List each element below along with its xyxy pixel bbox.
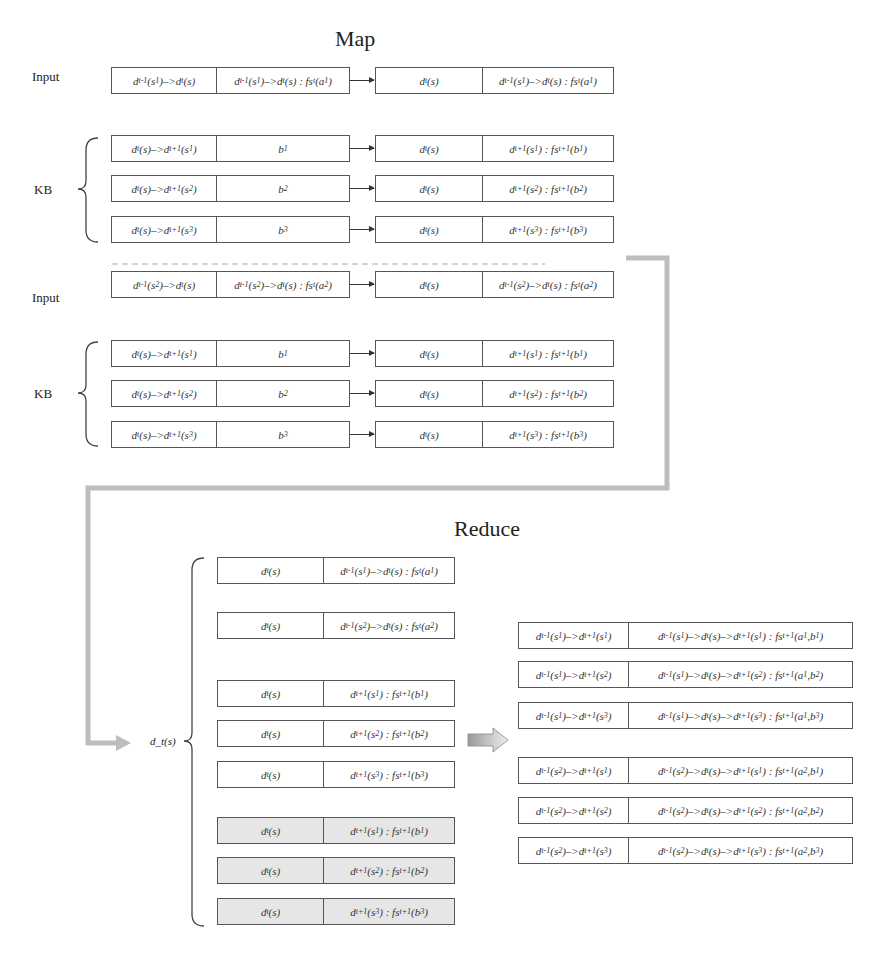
reduce-input-row-cell-0: dt(s)	[218, 558, 323, 583]
map-arrow-icon	[350, 393, 374, 394]
reduce-input-row: dt(s)dt-1(s1)–>dt(s) : fst(a1)	[217, 557, 455, 584]
reduce-input-row-cell-1: dt+1(s1) : fst+1(b1)	[323, 818, 454, 843]
map-input-row: dt-1(s2)–>dt(s)dt-1(s2)–>dt(s) : fst(a2)	[111, 271, 350, 298]
map-output-row-cell-1: dt+1(s1) : fst+1(b1)	[482, 136, 613, 161]
map-input-row-cell-0: dt(s)–>dt+1(s2)	[112, 176, 216, 201]
map-input-row-cell-1: b2	[216, 176, 349, 201]
map-input-row-cell-1: b1	[216, 136, 349, 161]
reduce-input-row: dt(s)dt+1(s2) : fst+1(b2)	[217, 720, 455, 747]
reduce-output-row-cell-1: dt-1(s2)–>dt(s)–>dt+1(s2) : fst+1(a2,b2)	[628, 798, 852, 823]
map-input-row: dt(s)–>dt+1(s2)b2	[111, 380, 350, 407]
reduce-input-row-cell-1: dt+1(s2) : fst+1(b2)	[323, 858, 454, 883]
map-output-row-cell-1: dt+1(s3) : fst+1(b3)	[482, 422, 613, 447]
reduce-input-row-cell-1: dt+1(s3) : fst+1(b3)	[323, 899, 454, 924]
reduce-brace	[184, 558, 204, 926]
map-output-row-cell-0: dt(s)	[376, 176, 482, 201]
map-output-row: dt(s)dt+1(s2) : fst+1(b2)	[375, 175, 614, 202]
reduce-input-row-cell-0: dt(s)	[218, 762, 323, 787]
map-title: Map	[335, 26, 375, 52]
kb-label-1: KB	[34, 182, 52, 198]
map-input-row-cell-0: dt(s)–>dt+1(s3)	[112, 422, 216, 447]
map-output-row-cell-0: dt(s)	[376, 68, 482, 93]
reduce-output-row-cell-0: dt-1(s2)–>dt+1(s2)	[519, 798, 628, 823]
reduce-input-row: dt(s)dt-1(s2)–>dt(s) : fst(a2)	[217, 612, 455, 639]
reduce-input-row-cell-1: dt-1(s1)–>dt(s) : fst(a1)	[323, 558, 454, 583]
map-output-row: dt(s)dt+1(s3) : fst+1(b3)	[375, 216, 614, 243]
map-output-row-cell-0: dt(s)	[376, 341, 482, 366]
reduce-output-row: dt-1(s2)–>dt+1(s2)dt-1(s2)–>dt(s)–>dt+1(…	[518, 797, 853, 824]
map-input-row-cell-1: dt-1(s1)–>dt(s) : fst(a1)	[216, 68, 349, 93]
map-output-row-cell-1: dt+1(s2) : fst+1(b2)	[482, 176, 613, 201]
map-input-row: dt(s)–>dt+1(s3)b3	[111, 216, 350, 243]
map-output-row: dt(s)dt-1(s2)–>dt(s) : fst(a2)	[375, 271, 614, 298]
reduce-input-row: dt(s)dt+1(s3) : fst+1(b3)	[217, 761, 455, 788]
kb-brace-1	[78, 138, 98, 242]
reduce-output-row-cell-1: dt-1(s1)–>dt(s)–>dt+1(s2) : fst+1(a1,b2)	[628, 662, 852, 687]
map-input-row-cell-0: dt-1(s2)–>dt(s)	[112, 272, 216, 297]
reduce-input-row-cell-0: dt(s)	[218, 681, 323, 706]
kb-label-2: KB	[34, 386, 52, 402]
reduce-input-row-cell-0: dt(s)	[218, 818, 323, 843]
map-output-row-cell-1: dt+1(s3) : fst+1(b3)	[482, 217, 613, 242]
map-arrow-icon	[350, 80, 374, 81]
reduce-output-row-cell-1: dt-1(s2)–>dt(s)–>dt+1(s3) : fst+1(a2,b3)	[628, 838, 852, 863]
map-input-row-cell-1: b3	[216, 217, 349, 242]
reduce-output-row: dt-1(s2)–>dt+1(s3)dt-1(s2)–>dt(s)–>dt+1(…	[518, 837, 853, 864]
map-output-row-cell-1: dt-1(s1)–>dt(s) : fst(a1)	[482, 68, 613, 93]
input-label-2: Input	[32, 290, 59, 306]
map-arrow-icon	[350, 434, 374, 435]
map-output-row: dt(s)dt-1(s1)–>dt(s) : fst(a1)	[375, 67, 614, 94]
map-arrow-icon	[350, 353, 374, 354]
reduce-output-row: dt-1(s2)–>dt+1(s1)dt-1(s2)–>dt(s)–>dt+1(…	[518, 757, 853, 784]
map-input-row-cell-1: b3	[216, 422, 349, 447]
map-arrow-icon	[350, 229, 374, 230]
reduce-block-arrow	[468, 728, 508, 752]
reduce-output-row-cell-1: dt-1(s2)–>dt(s)–>dt+1(s1) : fst+1(a2,b1)	[628, 758, 852, 783]
map-output-row-cell-0: dt(s)	[376, 136, 482, 161]
map-input-row-cell-1: b2	[216, 381, 349, 406]
map-output-row-cell-0: dt(s)	[376, 272, 482, 297]
map-input-row-cell-1: b1	[216, 341, 349, 366]
map-input-row: dt(s)–>dt+1(s2)b2	[111, 175, 350, 202]
map-input-row-cell-0: dt(s)–>dt+1(s1)	[112, 341, 216, 366]
reduce-output-row: dt-1(s1)–>dt+1(s2)dt-1(s1)–>dt(s)–>dt+1(…	[518, 661, 853, 688]
map-output-row-cell-1: dt-1(s2)–>dt(s) : fst(a2)	[482, 272, 613, 297]
reduce-group-key: d_t(s)	[150, 735, 176, 747]
reduce-output-row-cell-0: dt-1(s2)–>dt+1(s3)	[519, 838, 628, 863]
reduce-output-row-cell-1: dt-1(s1)–>dt(s)–>dt+1(s1) : fst+1(a1,b1)	[628, 623, 852, 648]
flow-connector-arrowhead	[116, 735, 131, 751]
reduce-input-row: dt(s)dt+1(s1) : fst+1(b1)	[217, 680, 455, 707]
map-arrow-icon	[350, 188, 374, 189]
map-input-row: dt(s)–>dt+1(s1)b1	[111, 340, 350, 367]
reduce-input-row-cell-0: dt(s)	[218, 899, 323, 924]
reduce-output-row-cell-0: dt-1(s1)–>dt+1(s2)	[519, 662, 628, 687]
map-output-row-cell-0: dt(s)	[376, 217, 482, 242]
map-input-row-cell-0: dt(s)–>dt+1(s2)	[112, 381, 216, 406]
map-input-row-cell-0: dt-1(s1)–>dt(s)	[112, 68, 216, 93]
map-output-row-cell-1: dt+1(s1) : fst+1(b1)	[482, 341, 613, 366]
reduce-input-row-cell-0: dt(s)	[218, 613, 323, 638]
map-output-row-cell-0: dt(s)	[376, 381, 482, 406]
map-output-row-cell-0: dt(s)	[376, 422, 482, 447]
map-input-row-cell-1: dt-1(s2)–>dt(s) : fst(a2)	[216, 272, 349, 297]
map-arrow-icon	[350, 284, 374, 285]
reduce-title: Reduce	[454, 516, 520, 542]
reduce-input-row-cell-1: dt+1(s2) : fst+1(b2)	[323, 721, 454, 746]
reduce-input-row-cell-0: dt(s)	[218, 721, 323, 746]
reduce-input-row: dt(s)dt+1(s2) : fst+1(b2)	[217, 857, 455, 884]
reduce-input-row-cell-0: dt(s)	[218, 858, 323, 883]
reduce-output-row-cell-0: dt-1(s2)–>dt+1(s1)	[519, 758, 628, 783]
map-input-row: dt(s)–>dt+1(s1)b1	[111, 135, 350, 162]
reduce-input-row: dt(s)dt+1(s1) : fst+1(b1)	[217, 817, 455, 844]
map-output-row-cell-1: dt+1(s2) : fst+1(b2)	[482, 381, 613, 406]
map-arrow-icon	[350, 148, 374, 149]
map-output-row: dt(s)dt+1(s1) : fst+1(b1)	[375, 340, 614, 367]
map-output-row: dt(s)dt+1(s1) : fst+1(b1)	[375, 135, 614, 162]
reduce-output-row-cell-0: dt-1(s1)–>dt+1(s1)	[519, 623, 628, 648]
reduce-output-row-cell-0: dt-1(s1)–>dt+1(s3)	[519, 703, 628, 728]
reduce-output-row: dt-1(s1)–>dt+1(s3)dt-1(s1)–>dt(s)–>dt+1(…	[518, 702, 853, 729]
map-output-row: dt(s)dt+1(s2) : fst+1(b2)	[375, 380, 614, 407]
input-label-1: Input	[32, 69, 59, 85]
reduce-input-row-cell-1: dt+1(s1) : fst+1(b1)	[323, 681, 454, 706]
reduce-input-row: dt(s)dt+1(s3) : fst+1(b3)	[217, 898, 455, 925]
